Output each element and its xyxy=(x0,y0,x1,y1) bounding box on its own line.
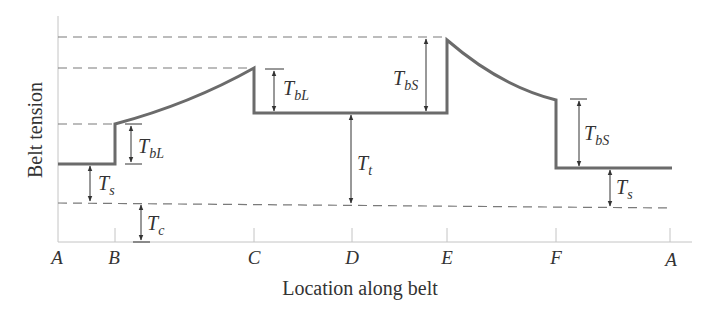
dimension-arrows xyxy=(90,39,610,242)
belt-tension-diagram: TbL Ts Tc TbL Tt TbS TbS Ts A B C D E F … xyxy=(0,0,710,314)
label-Ts-1: Ts xyxy=(98,172,115,198)
xtick-label-A: A xyxy=(49,247,63,268)
label-TbS-1: TbS xyxy=(393,67,418,93)
label-TbS-2: TbS xyxy=(584,122,609,148)
dash-Tc-level xyxy=(58,203,672,208)
xtick-label-E: E xyxy=(440,247,453,268)
xtick-label-D: D xyxy=(344,247,359,268)
label-Tc: Tc xyxy=(147,212,165,238)
x-axis-title: Location along belt xyxy=(282,277,438,300)
label-TbL-1: TbL xyxy=(138,135,164,161)
label-TbL-2: TbL xyxy=(283,77,309,103)
label-Tt: Tt xyxy=(357,152,373,178)
xtick-label-B: B xyxy=(108,247,120,268)
xtick-label-C: C xyxy=(248,247,261,268)
y-axis-title: Belt tension xyxy=(24,82,46,178)
xtick-label-F: F xyxy=(549,247,562,268)
label-Ts-2: Ts xyxy=(616,176,633,202)
xtick-label-A-end: A xyxy=(663,249,677,270)
axes xyxy=(58,16,692,242)
reference-lines xyxy=(58,37,672,208)
